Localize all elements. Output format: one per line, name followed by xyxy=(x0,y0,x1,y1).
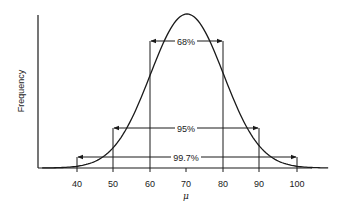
tick-label-80: 80 xyxy=(218,179,228,189)
label-99-7: 99.7% xyxy=(173,153,199,163)
label-68: 68% xyxy=(177,37,195,47)
tick-label-70: 70 xyxy=(181,179,191,189)
y-axis-label: Frequency xyxy=(16,69,26,112)
tick-label-40: 40 xyxy=(72,179,82,189)
tick-label-100: 100 xyxy=(289,179,304,189)
tick-label-90: 90 xyxy=(254,179,264,189)
tick-label-50: 50 xyxy=(108,179,118,189)
normal-distribution-chart: 68% 95% 99.7% 40 50 60 70 80 90 100 μ Fr… xyxy=(0,0,351,214)
x-axis-label: μ xyxy=(183,191,189,201)
label-95: 95% xyxy=(177,124,195,134)
tick-label-60: 60 xyxy=(145,179,155,189)
